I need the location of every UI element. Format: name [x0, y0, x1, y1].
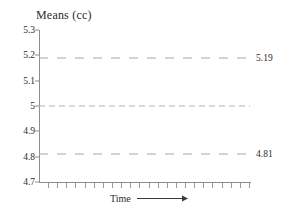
- x-axis-tick-mark: [94, 183, 95, 188]
- x-axis-tick-mark: [121, 183, 122, 188]
- x-axis-tick-mark: [139, 183, 140, 188]
- x-axis-caption: Time: [110, 193, 189, 204]
- x-axis-tick-mark: [112, 183, 113, 188]
- x-axis-tick-marks: [0, 0, 290, 214]
- x-axis-tick-mark: [149, 183, 150, 188]
- x-axis-tick-mark: [185, 183, 186, 188]
- x-axis-tick-mark: [75, 183, 76, 188]
- x-axis-tick-mark: [203, 183, 204, 188]
- control-chart: Means (cc) 5.35.25.154.94.84.7 5.194.81 …: [0, 0, 290, 214]
- x-axis-tick-mark: [240, 183, 241, 188]
- x-axis-tick-mark: [167, 183, 168, 188]
- x-axis-tick-mark: [194, 183, 195, 188]
- x-axis-tick-mark: [66, 183, 67, 188]
- x-axis-tick-mark: [130, 183, 131, 188]
- x-axis-tick-mark: [212, 183, 213, 188]
- x-axis-caption-label: Time: [110, 193, 131, 204]
- x-axis-tick-mark: [85, 183, 86, 188]
- x-axis-tick-mark: [103, 183, 104, 188]
- x-axis-tick-mark: [231, 183, 232, 188]
- x-axis-tick-mark: [176, 183, 177, 188]
- x-axis-tick-mark: [48, 183, 49, 188]
- x-axis-tick-mark: [222, 183, 223, 188]
- x-axis-tick-mark: [158, 183, 159, 188]
- right-arrow-icon: [137, 194, 189, 203]
- x-axis-tick-mark: [249, 183, 250, 188]
- x-axis-tick-mark: [57, 183, 58, 188]
